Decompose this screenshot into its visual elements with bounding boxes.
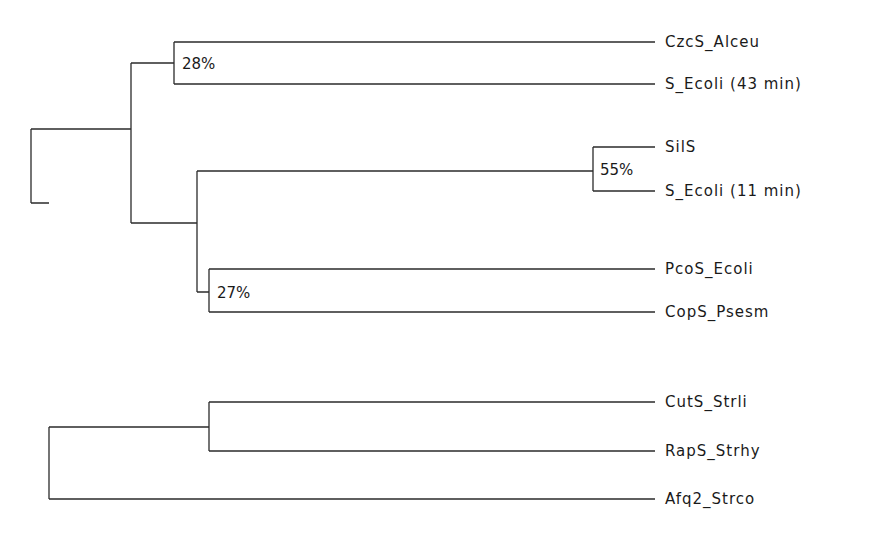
support-label-28: 28% — [182, 55, 215, 73]
support-label-27: 27% — [217, 284, 250, 302]
leaf-label-raps: RapS_Strhy — [665, 442, 761, 461]
leaf-label-czcs: CzcS_Alceu — [665, 33, 760, 52]
leaf-label-secoli-11: S_Ecoli (11 min) — [665, 182, 802, 201]
leaf-label-cuts: CutS_Strli — [665, 393, 748, 412]
root-branch — [31, 129, 131, 203]
clade-28-branch — [174, 42, 655, 84]
lower-clade-branch — [49, 427, 655, 499]
leaf-label-cops: CopS_Psesm — [665, 303, 769, 322]
middle-clade-branch — [197, 171, 593, 292]
strep-clade-branch — [209, 402, 655, 451]
leaf-label-afq2: Afq2_Strco — [665, 490, 755, 509]
leaf-label-pcos: PcoS_Ecoli — [665, 260, 754, 279]
clade-27-branch — [209, 269, 655, 312]
leaf-label-sils: SilS — [665, 138, 696, 156]
support-label-55: 55% — [600, 161, 633, 179]
leaf-label-secoli-43: S_Ecoli (43 min) — [665, 75, 802, 94]
upper-clade-branch — [131, 63, 197, 223]
phylogenetic-tree: 28% 55% 27% CzcS_Alceu S_Ecoli (43 min) … — [0, 0, 869, 540]
